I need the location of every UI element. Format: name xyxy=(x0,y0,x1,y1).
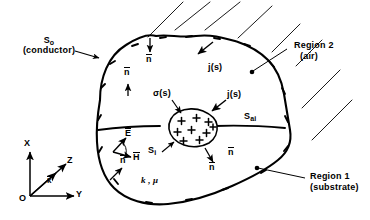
inner-blob-path xyxy=(169,109,217,147)
label-wave-vector-k: k xyxy=(47,177,52,185)
label-region1-paren: (substrate) xyxy=(310,183,359,192)
normal-arrow-inner-down xyxy=(205,148,213,162)
label-normal-bottom: n xyxy=(120,156,126,165)
label-surface-charge-sigma: σ(s) xyxy=(153,89,171,98)
label-inner-surface-si: Si xyxy=(148,146,156,156)
label-region2-paren: (air) xyxy=(300,52,318,61)
sigma-leader-line xyxy=(172,100,181,113)
surface-current-arrows xyxy=(198,42,226,111)
label-region2-name: Region 2 xyxy=(294,41,334,50)
label-axis-x: X xyxy=(24,139,30,148)
label-efield: E xyxy=(125,129,131,138)
label-axis-origin: O xyxy=(19,194,26,203)
label-region1-name: Region 1 xyxy=(310,172,350,181)
label-so-paren: (conductor) xyxy=(23,45,75,55)
label-interface-sai: Sai xyxy=(244,112,256,122)
label-surface-current-inner: j(s) xyxy=(227,90,241,99)
label-normal-inner: n xyxy=(209,163,215,172)
label-material-params: k , μ xyxy=(141,176,158,185)
si-leader-line xyxy=(162,142,174,152)
label-hfield: H xyxy=(133,153,140,162)
wave-vector-k-arrow xyxy=(30,173,56,196)
figure-canvas: So (conductor) Region 2 (air) Region 1 (… xyxy=(0,0,370,220)
label-axis-z: Z xyxy=(67,156,73,165)
label-normal-top: n xyxy=(146,55,152,64)
j-arrow-top xyxy=(198,42,213,54)
normal-arrow-bottom xyxy=(110,168,122,180)
label-outer-surface: So (conductor) xyxy=(18,36,80,56)
label-surface-current-top: j(s) xyxy=(208,63,222,72)
label-axis-y: Y xyxy=(76,190,82,199)
j-arrow-inner xyxy=(212,100,226,111)
field-angle-arc xyxy=(122,142,126,154)
region2-leader-line xyxy=(250,49,287,74)
label-so-symbol: So xyxy=(44,35,55,45)
label-normal-left: n xyxy=(124,68,130,77)
label-normal-right: n xyxy=(228,148,234,157)
